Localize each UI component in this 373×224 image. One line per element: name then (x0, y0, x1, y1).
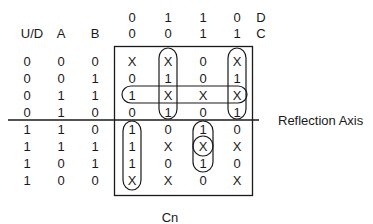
c-value-1: 0 (164, 27, 171, 40)
cell: 1 (128, 123, 135, 136)
cell: 0 (199, 174, 206, 187)
row-ud: 1 (23, 174, 30, 187)
cell: X (128, 174, 137, 187)
row-b: 1 (91, 157, 98, 170)
cell: X (164, 140, 173, 153)
c-value-3: 1 (233, 27, 240, 40)
cell: 1 (199, 123, 206, 136)
cell: X (164, 55, 173, 68)
cell: 1 (233, 106, 240, 119)
row-ud: 0 (23, 106, 30, 119)
row-b: 0 (91, 174, 98, 187)
row-b: 0 (91, 123, 98, 136)
row-b: 1 (91, 72, 98, 85)
cell: 0 (128, 72, 135, 85)
cell: X (164, 89, 173, 102)
row-a: 0 (57, 174, 64, 187)
row-ud: 1 (23, 140, 30, 153)
row-ud: 0 (23, 55, 30, 68)
row-b: 0 (91, 55, 98, 68)
row-ud: 1 (23, 123, 30, 136)
row-a: 1 (57, 140, 64, 153)
cell: X (233, 140, 242, 153)
d-value-2: 1 (199, 11, 206, 24)
cell: 1 (128, 89, 135, 102)
cell: X (233, 89, 242, 102)
row-b: 1 (91, 140, 98, 153)
cell: X (233, 55, 242, 68)
cell: 0 (199, 106, 206, 119)
row-b: 1 (91, 89, 98, 102)
cell: X (199, 140, 208, 153)
c-value-0: 0 (128, 27, 135, 40)
cell: X (199, 89, 208, 102)
cell: 1 (128, 157, 135, 170)
row-a: 0 (57, 55, 64, 68)
cell: X (128, 55, 137, 68)
cell: X (164, 174, 173, 187)
row-ud: 0 (23, 72, 30, 85)
cell: 0 (233, 123, 240, 136)
cell: 1 (128, 140, 135, 153)
cell: 1 (164, 106, 171, 119)
cell: X (233, 174, 242, 187)
cell: 0 (233, 157, 240, 170)
cell: 0 (199, 72, 206, 85)
reflection-axis-label: Reflection Axis (278, 114, 363, 127)
row-a: 0 (57, 157, 64, 170)
cell: 1 (199, 157, 206, 170)
cell: 1 (164, 72, 171, 85)
cell: 0 (164, 123, 171, 136)
label-ud: U/D (21, 27, 43, 40)
row-ud: 1 (23, 157, 30, 170)
row-a: 1 (57, 123, 64, 136)
label-d: D (256, 11, 265, 24)
label-a: A (57, 27, 66, 40)
cell: 0 (199, 55, 206, 68)
label-c: C (256, 27, 265, 40)
c-value-2: 1 (199, 27, 206, 40)
row-ud: 0 (23, 89, 30, 102)
output-label-cn: Cn (162, 211, 179, 224)
d-value-0: 0 (128, 11, 135, 24)
cell: 0 (128, 106, 135, 119)
cell: 0 (164, 157, 171, 170)
cell: 1 (233, 72, 240, 85)
row-b: 0 (91, 106, 98, 119)
label-b: B (91, 27, 100, 40)
row-a: 1 (57, 89, 64, 102)
d-value-3: 0 (233, 11, 240, 24)
row-a: 1 (57, 106, 64, 119)
row-a: 0 (57, 72, 64, 85)
d-value-1: 1 (164, 11, 171, 24)
